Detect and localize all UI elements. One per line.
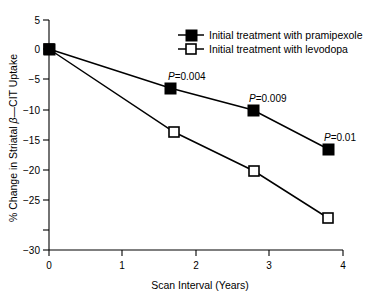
pvalue-annotation: P=0.009 [249,93,287,104]
data-point-marker [249,166,259,176]
pvalue-number: =0.004 [175,71,206,82]
legend-marker-filled-square [186,30,197,41]
legend-item-levodopa: Initial treatment with levodopa [178,43,348,55]
data-point-marker [165,83,176,94]
x-axis-title: Scan Interval (Years) [151,279,249,291]
data-point-marker [44,44,55,55]
pvalue-annotation: P=0.004 [168,71,206,82]
chart-container: 5 0 −5 −10 −15 −20 −25 −30 0 1 2 3 4 Sca… [0,0,372,299]
legend-label: Initial treatment with pramipexole [209,29,363,41]
y-axis-title: % Change in Striatal β—CIT Uptake [7,54,19,222]
x-tick-marks [49,250,343,256]
data-point-marker [323,213,333,223]
x-tick-label: 3 [266,260,272,271]
y-tick-label: 5 [34,15,40,26]
x-tick-label: 2 [193,260,199,271]
y-tick-label: 0 [34,44,40,55]
y-axis-title-beta: β [7,117,19,124]
y-tick-label: −25 [23,195,40,206]
x-tick-labels: 0 1 2 3 4 [46,260,346,271]
pvalue-annotations: P=0.004 P=0.009 P=0.01 [168,71,356,143]
y-axis-title-part2: —CIT Uptake [7,54,19,118]
pvalue-annotation: P=0.01 [324,132,356,143]
pvalue-number: =0.009 [256,93,287,104]
y-tick-label: −30 [23,245,40,256]
pvalue-number: =0.01 [331,132,357,143]
data-point-marker [248,105,259,116]
x-tick-label: 0 [46,260,52,271]
y-axis-title-part1: % Change in Striatal [7,123,19,222]
legend-item-pramipexole: Initial treatment with pramipexole [178,29,363,41]
series-pramipexole [44,44,334,155]
chart-legend: Initial treatment with pramipexole Initi… [178,29,363,55]
y-tick-label: −15 [23,135,40,146]
y-tick-label: −10 [23,105,40,116]
line-chart: 5 0 −5 −10 −15 −20 −25 −30 0 1 2 3 4 Sca… [0,0,372,299]
data-point-marker [323,144,334,155]
y-tick-labels: 5 0 −5 −10 −15 −20 −25 −30 [23,15,40,256]
y-tick-label: −20 [23,165,40,176]
x-tick-label: 1 [119,260,125,271]
legend-marker-open-square [186,44,196,54]
data-point-marker [169,127,179,137]
svg-text:% Change in Striatal β—CIT Upt: % Change in Striatal β—CIT Uptake [7,54,19,222]
y-tick-label: −5 [29,74,41,85]
legend-label: Initial treatment with levodopa [209,43,348,55]
x-tick-label: 4 [340,260,346,271]
